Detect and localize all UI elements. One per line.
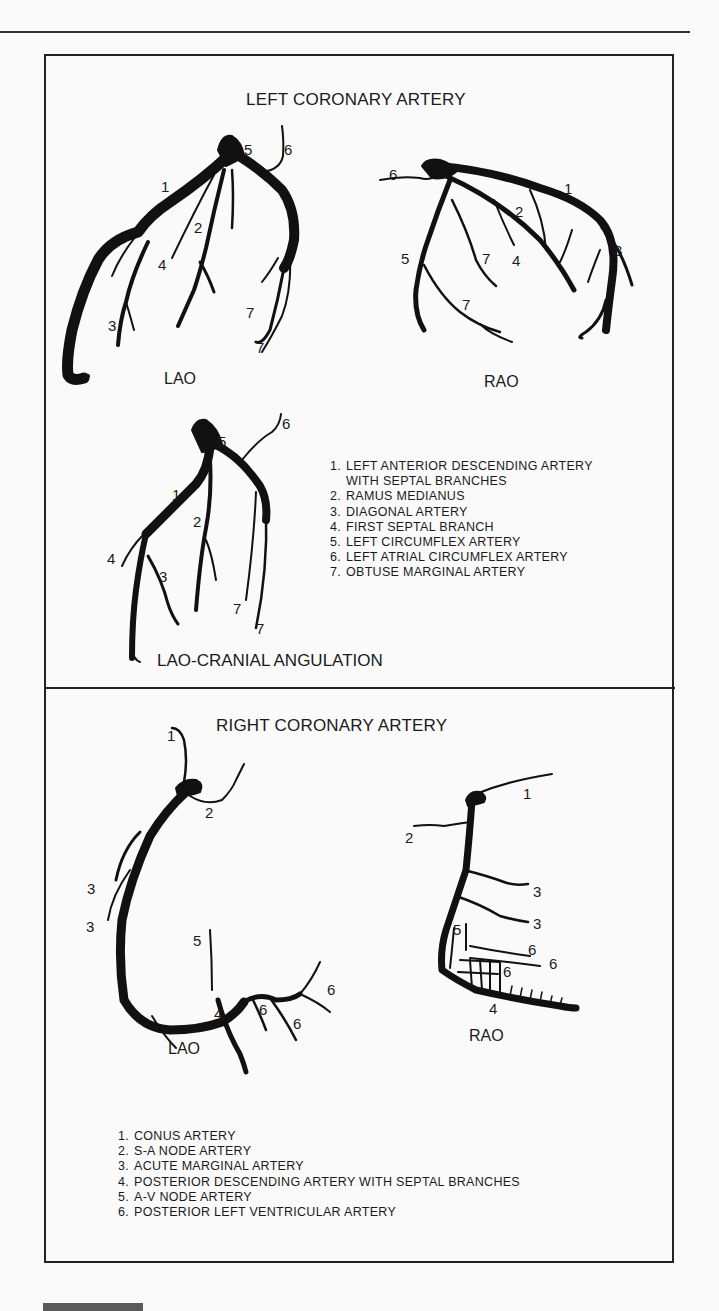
marker-6b: 6: [549, 955, 557, 972]
right-coronary-legend: 1.CONUS ARTERY 2.S-A NODE ARTERY 3.ACUTE…: [118, 1129, 520, 1220]
legend-item: 6.POSTERIOR LEFT VENTRICULAR ARTERY: [118, 1205, 520, 1220]
marker-1: 1: [523, 785, 531, 802]
marker-3: 3: [533, 883, 541, 900]
marker-3b: 3: [533, 915, 541, 932]
marker-5: 5: [453, 921, 461, 938]
legend-item: 5.A-V NODE ARTERY: [118, 1190, 520, 1205]
marker-6: 6: [528, 941, 536, 958]
legend-item: 1.CONUS ARTERY: [118, 1129, 520, 1144]
marker-6c: 6: [503, 963, 511, 980]
marker-2: 2: [405, 829, 413, 846]
right-rao-diagram: 1 2 3 3 4 5 6 6 6: [0, 0, 719, 1311]
legend-item: 4.POSTERIOR DESCENDING ARTERY WITH SEPTA…: [118, 1175, 520, 1190]
legend-item: 3.ACUTE MARGINAL ARTERY: [118, 1159, 520, 1174]
right-rao-label: RAO: [469, 1027, 504, 1045]
marker-4: 4: [489, 1000, 497, 1017]
page-footer-bar: [43, 1303, 143, 1311]
legend-item: 2.S-A NODE ARTERY: [118, 1144, 520, 1159]
